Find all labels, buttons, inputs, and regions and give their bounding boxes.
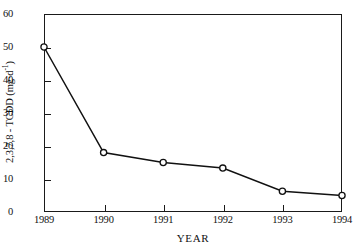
series-data-point xyxy=(220,165,226,171)
y-axis-tick-label: 20 xyxy=(3,141,13,152)
x-axis-tick-label: 1992 xyxy=(213,215,233,226)
x-axis-tick-label: 1989 xyxy=(34,215,54,226)
series-data-point xyxy=(41,44,47,50)
y-axis-tick-label: 10 xyxy=(3,174,13,185)
series-data-point xyxy=(339,192,345,198)
series-data-point xyxy=(101,150,107,156)
x-axis-tick-label: 1994 xyxy=(332,215,352,226)
series-line-tcdd xyxy=(44,47,342,196)
series-data-point xyxy=(279,188,285,194)
chart-figure: 2,3,7,8 - TCDD (mg·d-1) 0102030405060 19… xyxy=(0,0,360,251)
y-axis-tick-label: 60 xyxy=(3,9,13,20)
y-axis-tick-label: 30 xyxy=(3,108,13,119)
y-axis-tick-label: 0 xyxy=(8,207,13,218)
data-series-layer xyxy=(44,14,342,212)
x-axis-tick-label: 1990 xyxy=(93,215,113,226)
x-axis-title: YEAR xyxy=(177,232,209,244)
y-axis-title-superscript: -1 xyxy=(1,65,10,71)
y-axis-tick-label: 50 xyxy=(3,42,13,53)
y-axis-title-tail: ) xyxy=(4,61,15,64)
y-axis-tick-label: 40 xyxy=(3,75,13,86)
x-axis-tick-label: 1993 xyxy=(272,215,292,226)
series-data-point xyxy=(160,159,166,165)
x-axis-tick-label: 1991 xyxy=(153,215,173,226)
